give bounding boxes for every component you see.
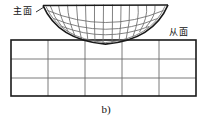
slave-grid-horizontal-lines — [11, 59, 196, 78]
slave-surface-label: 从面 — [169, 27, 188, 37]
slave-surface-outline — [11, 40, 196, 96]
master-surface-top-rim — [43, 5, 168, 6]
master-surface-curve — [43, 5, 168, 44]
master-surface-mesh — [43, 5, 168, 45]
slave-grid-vertical-lines — [48, 40, 159, 96]
figure-caption: b) — [0, 103, 212, 115]
master-label-leader-line — [36, 7, 44, 12]
figure-contact-pair: 主面 从面 b) — [0, 0, 212, 124]
master-surface-label: 主面 — [13, 6, 32, 16]
slave-surface-mesh — [11, 40, 196, 96]
